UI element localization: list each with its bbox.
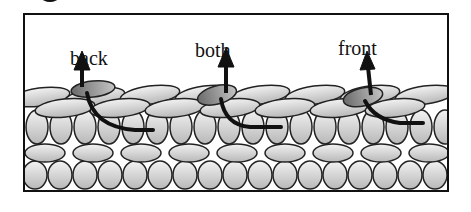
- label-both: both: [195, 39, 231, 62]
- stitch-illustration: [25, 15, 449, 192]
- partial-heading-glyph: [42, 0, 58, 2]
- label-back: back: [70, 47, 108, 70]
- label-front: front: [338, 37, 377, 60]
- diagram-frame: back both front: [23, 13, 449, 192]
